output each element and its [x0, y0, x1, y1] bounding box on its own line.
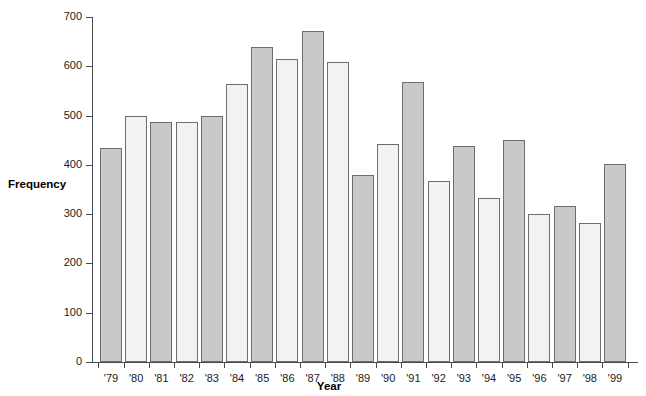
- bar-88: [327, 62, 349, 362]
- bar-80: [125, 116, 147, 362]
- bar-82: [176, 122, 198, 363]
- bar-92: [428, 181, 450, 362]
- x-tick-mark: [199, 363, 200, 368]
- y-tick-label: 100: [38, 307, 82, 318]
- bar-86: [276, 59, 298, 362]
- bar-90: [377, 144, 399, 362]
- y-tick-label-wrap: 400: [30, 159, 82, 170]
- bar-97: [554, 206, 576, 362]
- x-axis-title-text: Year: [317, 380, 341, 392]
- bar-91: [402, 82, 424, 362]
- bar-81: [150, 122, 172, 363]
- bar-93: [453, 146, 475, 362]
- y-tick-label-wrap: 300: [30, 208, 82, 219]
- x-tick-mark: [275, 363, 276, 368]
- x-tick-mark: [174, 363, 175, 368]
- x-tick-mark: [552, 363, 553, 368]
- y-axis-title: Frequency: [8, 178, 66, 190]
- x-tick-mark: [628, 363, 629, 368]
- x-tick-mark: [325, 363, 326, 368]
- y-tick-label: 500: [38, 110, 82, 121]
- x-tick-mark: [577, 363, 578, 368]
- x-tick-mark: [350, 363, 351, 368]
- x-tick-mark: [376, 363, 377, 368]
- x-tick-mark: [300, 363, 301, 368]
- bar-85: [251, 47, 273, 362]
- y-tick-label-wrap: 700: [30, 11, 82, 22]
- x-tick-mark: [98, 363, 99, 368]
- bar-98: [579, 223, 601, 362]
- bar-99: [604, 164, 626, 362]
- bar-96: [528, 214, 550, 362]
- x-tick-mark: [502, 363, 503, 368]
- x-tick-mark: [401, 363, 402, 368]
- y-tick-label: 300: [38, 208, 82, 219]
- y-tick-label-wrap: 100: [30, 307, 82, 318]
- bar-79: [100, 148, 122, 362]
- bar-chart-figure: Frequency 0100200300400500600700 '79'80'…: [0, 0, 646, 396]
- y-tick-label: 700: [38, 11, 82, 22]
- x-tick-mark: [426, 363, 427, 368]
- bar-89: [352, 175, 374, 362]
- bars-container: [92, 17, 638, 362]
- y-tick-label-wrap: 500: [30, 110, 82, 121]
- bar-95: [503, 140, 525, 362]
- bar-87: [302, 31, 324, 362]
- y-tick-label-wrap: 0: [30, 356, 82, 367]
- x-tick-mark: [124, 363, 125, 368]
- y-tick-label: 0: [38, 356, 82, 367]
- y-tick-label: 400: [38, 159, 82, 170]
- y-tick-label-wrap: 600: [30, 60, 82, 71]
- x-tick-mark: [149, 363, 150, 368]
- y-tick-label: 600: [38, 60, 82, 71]
- y-tick-label: 200: [38, 257, 82, 268]
- x-tick-mark: [250, 363, 251, 368]
- x-tick-mark: [527, 363, 528, 368]
- x-tick-mark: [224, 363, 225, 368]
- bar-94: [478, 198, 500, 362]
- x-tick-mark: [476, 363, 477, 368]
- x-tick-mark: [602, 363, 603, 368]
- y-tick-label-wrap: 200: [30, 257, 82, 268]
- x-tick-mark: [451, 363, 452, 368]
- x-axis-title: Year: [0, 380, 646, 392]
- bar-83: [201, 116, 223, 362]
- bar-84: [226, 84, 248, 362]
